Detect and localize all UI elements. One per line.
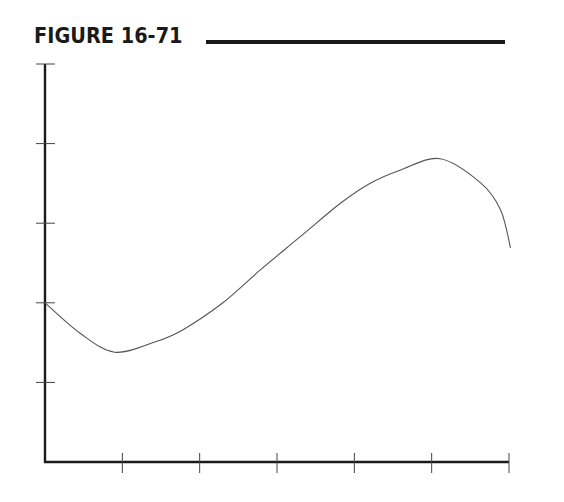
line-chart <box>0 0 564 502</box>
data-curve <box>45 158 511 352</box>
axes <box>44 64 509 463</box>
